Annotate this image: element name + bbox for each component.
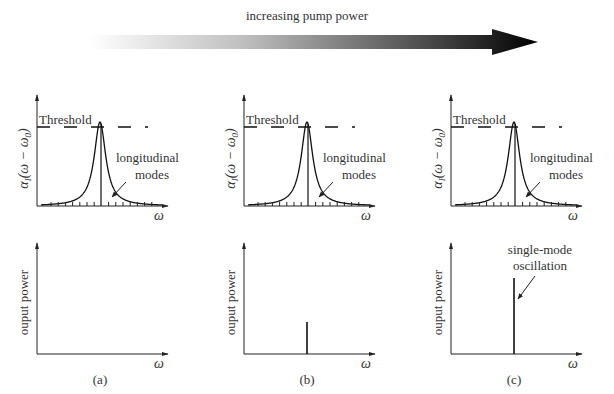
modes-label: modes (342, 167, 376, 182)
panel-b: ThresholdlongitudinalmodesωαI(ω − ω0)ωou… (223, 95, 386, 387)
power-x-label: ω (361, 356, 371, 371)
panel-caption: (a) (93, 372, 107, 387)
threshold-label: Threshold (246, 112, 299, 127)
gain-y-label: αI(ω − ω0) (430, 128, 447, 189)
power-x-label: ω (154, 356, 164, 371)
panel-a: ThresholdlongitudinalmodesωαI(ω − ω0)ωou… (16, 95, 179, 387)
modes-label: modes (135, 167, 169, 182)
gain-x-label: ω (568, 208, 578, 223)
gain-x-label: ω (361, 208, 371, 223)
threshold-label: Threshold (39, 112, 92, 127)
panel-c: ThresholdlongitudinalmodesωαI(ω − ω0)ωou… (430, 95, 593, 387)
longitudinal-label: longitudinal (530, 150, 593, 165)
power-y-label: ouput power (16, 269, 31, 335)
oscillation-label: oscillation (513, 258, 568, 273)
gain-x-label: ω (154, 208, 164, 223)
pump-power-arrow: increasing pump power (90, 8, 538, 55)
laser-mode-diagram: increasing pump power Thresholdlongitudi… (0, 0, 614, 394)
gain-y-label: αI(ω − ω0) (223, 128, 240, 189)
gain-plot: ThresholdlongitudinalmodesωαI(ω − ω0) (223, 95, 386, 223)
longitudinal-label: longitudinal (323, 150, 386, 165)
gain-plot: ThresholdlongitudinalmodesωαI(ω − ω0) (430, 95, 593, 223)
panel-caption: (b) (299, 372, 314, 387)
power-y-label: ouput power (430, 269, 445, 335)
pump-power-label: increasing pump power (246, 8, 369, 23)
output-power-plot: ωouput powersingle-modeoscillation (430, 242, 582, 371)
threshold-label: Threshold (453, 112, 506, 127)
single-mode-label: single-mode (508, 242, 572, 257)
panel-caption: (c) (507, 372, 521, 387)
gain-y-label: αI(ω − ω0) (16, 128, 33, 189)
modes-label: modes (549, 167, 583, 182)
gradient-arrow-icon (90, 29, 538, 55)
single-mode-pointer-arrow-icon (518, 276, 535, 299)
gain-plot: ThresholdlongitudinalmodesωαI(ω − ω0) (16, 95, 179, 223)
longitudinal-label: longitudinal (116, 150, 179, 165)
output-power-plot: ωouput power (223, 243, 375, 371)
power-y-label: ouput power (223, 269, 238, 335)
output-power-plot: ωouput power (16, 243, 168, 371)
power-x-label: ω (568, 356, 578, 371)
